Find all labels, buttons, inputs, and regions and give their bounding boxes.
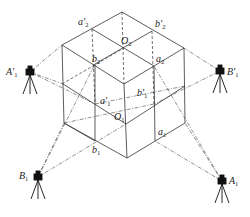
sight-A1-a2 [154,66,222,181]
sight-A1p-TL [30,45,62,72]
cube-outline [62,12,185,158]
sight-B1p-b1p [154,71,220,104]
tripod-A1-icon [215,175,229,203]
tripod-B1-icon [31,171,45,199]
sight-lines [30,45,222,181]
label-a1p: a'1 [100,95,110,107]
diagram-canvas: a'2 b'2 O2 b2 a2 a'1 b'1 O1 b1 a1 A'1 B'… [0,0,250,217]
tripod-A1p-icon [23,66,37,94]
label-b2p: b'2 [155,18,165,30]
label-B1: B1 [19,170,28,182]
sight-A1p-mid [30,72,63,84]
cube-solid-edges [62,12,185,158]
sight-B1p-TR [184,48,220,71]
label-b1p: b'1 [137,87,147,99]
label-A1: A1 [228,175,238,187]
label-O2: O2 [121,35,131,47]
label-a1: a1 [158,126,166,138]
sight-A1-a1 [155,141,222,181]
label-b2: b2 [92,53,100,65]
label-A1p: A'1 [5,66,18,78]
label-O1: O1 [114,111,124,123]
label-a2: a2 [156,53,164,65]
label-b1: b1 [92,144,100,156]
label-B1p: B'1 [227,66,239,78]
point-labels: a'2 b'2 O2 b2 a2 a'1 b'1 O1 b1 a1 [78,16,166,156]
cube-survey-diagram: a'2 b'2 O2 b2 a2 a'1 b'1 O1 b1 a1 A'1 B'… [0,0,250,217]
tripod-B1p-icon [213,65,227,93]
sight-B1-BL [38,123,64,177]
label-a2p: a'2 [78,16,88,28]
sight-A1-BR [185,123,222,181]
top-face-front-edges [62,45,184,84]
bottom-left-edge [64,123,95,141]
